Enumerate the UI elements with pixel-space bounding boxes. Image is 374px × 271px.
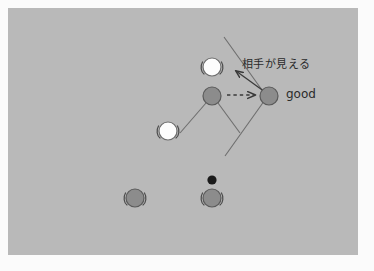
player-light-left[interactable] <box>157 122 179 140</box>
good-annotation-label: good <box>286 88 316 100</box>
player-dark-good[interactable] <box>260 87 278 105</box>
leg-right-icon <box>218 103 240 133</box>
player-token-icon <box>203 189 221 207</box>
player-token-icon <box>126 189 144 207</box>
player-light-top[interactable] <box>201 58 223 76</box>
player-body-lines-group <box>180 103 240 133</box>
player-token-icon <box>159 122 177 140</box>
ball-icon <box>207 175 216 184</box>
player-dark-bottom-left[interactable] <box>124 189 146 207</box>
sight-annotation-label: 相手が見える <box>242 59 310 70</box>
player-token-icon <box>260 87 278 105</box>
leg-left-icon <box>180 103 206 133</box>
tactical-diagram-figure: 相手が見える good <box>0 0 374 271</box>
player-token-icon <box>203 87 221 105</box>
player-dark-bottom-right[interactable] <box>201 189 223 207</box>
diagram-canvas <box>0 0 374 271</box>
player-token-icon <box>203 58 221 76</box>
player-dark-center[interactable] <box>203 87 221 105</box>
